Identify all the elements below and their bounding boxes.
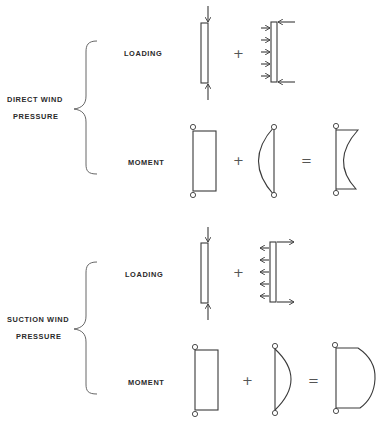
pin-support-bottom	[272, 410, 277, 415]
plus-operator: +	[233, 265, 244, 280]
pin-support-top	[192, 344, 197, 349]
pin-support-bottom	[192, 411, 197, 416]
moment-label: MOMENT	[128, 378, 164, 387]
column-member	[270, 242, 276, 302]
pin-support-top	[272, 343, 277, 348]
section-direct-wind-pressure: DIRECT WIND PRESSURE LOADING MOMENT +	[7, 6, 358, 198]
moment-rectangle	[192, 344, 218, 416]
section-title-line1: DIRECT WIND	[7, 95, 63, 104]
equals-operator: =	[301, 153, 312, 168]
pin-support-bottom	[333, 408, 338, 413]
moment-resultant-convex	[332, 342, 375, 413]
curly-brace	[74, 262, 97, 394]
pin-support-top	[333, 123, 338, 128]
pin-support-bottom	[333, 190, 338, 195]
pin-support-bottom	[190, 192, 195, 197]
wind-pressure-diagram: DIRECT WIND PRESSURE LOADING MOMENT +	[0, 0, 381, 425]
plus-operator: +	[242, 373, 253, 388]
moment-parabola-left	[259, 124, 277, 197]
section-title-line2: PRESSURE	[13, 112, 58, 121]
column-member	[201, 23, 208, 83]
plus-operator: +	[233, 46, 244, 61]
moment-rectangle	[190, 124, 216, 197]
equals-operator: =	[308, 373, 319, 388]
lateral-load-member	[260, 242, 294, 302]
column-member	[201, 243, 208, 303]
column-member	[271, 22, 277, 82]
loading-label: LOADING	[125, 270, 163, 279]
pin-support-top	[190, 124, 195, 129]
pin-support-top	[332, 342, 337, 347]
axial-load-member	[201, 227, 208, 320]
section-title-line1: SUCTION WIND	[7, 315, 69, 324]
pin-support-bottom	[271, 192, 276, 197]
pin-support-top	[271, 124, 276, 129]
moment-label: MOMENT	[128, 158, 164, 167]
moment-resultant-concave	[333, 123, 358, 195]
loading-label: LOADING	[124, 49, 162, 58]
plus-operator: +	[233, 153, 244, 168]
axial-load-member	[201, 6, 208, 100]
section-suction-wind-pressure: SUCTION WIND PRESSURE LOADING MOMENT +	[7, 227, 375, 417]
moment-parabola-right	[272, 343, 291, 415]
curly-brace	[74, 41, 97, 174]
lateral-load-member	[261, 22, 295, 82]
section-title-line2: PRESSURE	[16, 332, 61, 341]
